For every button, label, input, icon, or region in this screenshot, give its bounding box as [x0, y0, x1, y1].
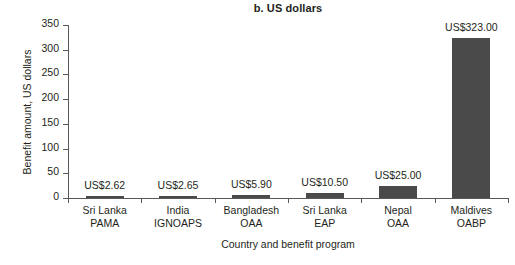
x-category-label-line: OAA: [384, 217, 411, 230]
x-category-label-line: Sri Lanka: [82, 204, 126, 217]
bar-value-label: US$10.50: [301, 176, 348, 188]
bar[interactable]: [306, 193, 344, 198]
bar[interactable]: [379, 186, 417, 198]
y-tick-mark: [63, 50, 68, 51]
x-category-label-line: Sri Lanka: [302, 204, 346, 217]
y-tick: 150: [68, 124, 69, 125]
bar[interactable]: [452, 38, 490, 198]
y-tick: 300: [68, 50, 69, 51]
chart-figure: b. US dollars Benefit amount, US dollars…: [0, 0, 515, 265]
y-tick-label: 250: [41, 66, 59, 78]
x-category-label: IndiaIGNOAPS: [154, 204, 202, 229]
x-category-label: Sri LankaPAMA: [82, 204, 126, 229]
y-tick-mark: [63, 124, 68, 125]
x-category-label-line: EAP: [302, 217, 346, 230]
y-axis-line: [68, 25, 69, 198]
x-tick-mark: [141, 198, 142, 203]
bar-value-label: US$2.65: [158, 179, 199, 191]
x-tick-mark: [68, 198, 69, 203]
x-category-label: MaldivesOABP: [451, 204, 492, 229]
y-tick: 100: [68, 149, 69, 150]
y-tick-label: 0: [53, 190, 59, 202]
y-tick: 250: [68, 74, 69, 75]
plot-area: 050100150200250300350US$2.62Sri LankaPAM…: [68, 25, 508, 198]
y-tick-mark: [63, 99, 68, 100]
x-axis-title: Country and benefit program: [68, 238, 508, 250]
y-tick: 350: [68, 25, 69, 26]
y-tick-label: 100: [41, 141, 59, 153]
x-tick-mark: [435, 198, 436, 203]
y-axis-title: Benefit amount, US dollars: [21, 22, 33, 202]
x-category-label-line: Nepal: [384, 204, 411, 217]
x-category-label: BangladeshOAA: [224, 204, 279, 229]
y-tick-label: 300: [41, 42, 59, 54]
y-tick-mark: [63, 25, 68, 26]
x-category-label-line: India: [154, 204, 202, 217]
x-tick-mark: [361, 198, 362, 203]
x-category-label-line: Maldives: [451, 204, 492, 217]
x-category-label-line: OABP: [451, 217, 492, 230]
bar-value-label: US$323.00: [445, 21, 498, 33]
y-tick-mark: [63, 149, 68, 150]
bar-value-label: US$25.00: [375, 169, 422, 181]
x-category-label-line: PAMA: [82, 217, 126, 230]
y-tick-label: 200: [41, 91, 59, 103]
bar[interactable]: [232, 195, 270, 198]
y-tick: 50: [68, 173, 69, 174]
bar-value-label: US$2.62: [84, 179, 125, 191]
x-tick-mark: [288, 198, 289, 203]
y-tick-mark: [63, 173, 68, 174]
x-category-label-line: IGNOAPS: [154, 217, 202, 230]
y-tick-mark: [63, 74, 68, 75]
x-category-label: Sri LankaEAP: [302, 204, 346, 229]
bar[interactable]: [159, 196, 197, 198]
y-tick: 200: [68, 99, 69, 100]
bar-value-label: US$5.90: [231, 178, 272, 190]
x-category-label-line: Bangladesh: [224, 204, 279, 217]
x-category-label-line: OAA: [224, 217, 279, 230]
x-tick-mark: [215, 198, 216, 203]
y-tick-label: 150: [41, 116, 59, 128]
chart-title: b. US dollars: [68, 2, 508, 14]
x-tick-mark: [508, 198, 509, 203]
bar[interactable]: [86, 196, 124, 198]
x-category-label: NepalOAA: [384, 204, 411, 229]
y-tick-label: 350: [41, 17, 59, 29]
y-tick-label: 50: [47, 165, 59, 177]
